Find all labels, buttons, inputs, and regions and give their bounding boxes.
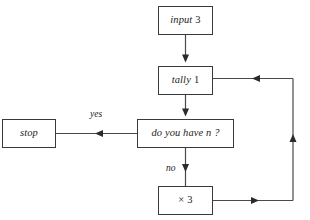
arrowhead-into-stop (95, 130, 103, 137)
node-times-text: ×3 (178, 195, 192, 206)
node-input-text: input3 (170, 15, 200, 26)
edge-label-yes: yes (90, 110, 102, 120)
node-decision[interactable]: do you have n ? (137, 119, 234, 148)
node-stop[interactable]: stop (2, 119, 56, 148)
node-tally-value: 1 (191, 74, 199, 85)
node-decision-label: do you have n ? (152, 128, 220, 139)
node-tally-label: tally (172, 74, 191, 85)
node-tally-text: tally1 (172, 75, 200, 86)
node-stop-label: stop (20, 128, 38, 139)
edge-label-no: no (166, 164, 176, 174)
arrowhead-into-decision (182, 109, 189, 117)
arrowhead-loop-vertical-up (290, 134, 297, 142)
node-input-label: input (170, 14, 192, 25)
node-times-value: 3 (184, 194, 192, 205)
flowchart-diagram: input3 tally1 do you have n ? stop ×3 ye… (0, 0, 310, 220)
arrowhead-into-tally (182, 55, 189, 63)
arrowhead-loop-into-tally (252, 75, 260, 82)
arrowhead-into-times (182, 164, 189, 172)
node-tally[interactable]: tally1 (158, 66, 213, 95)
node-times[interactable]: ×3 (158, 186, 213, 215)
node-input-value: 3 (192, 14, 200, 25)
edge-layer (0, 0, 310, 220)
node-input[interactable]: input3 (158, 6, 213, 35)
arrowhead-loop-bottom-right (251, 197, 259, 204)
